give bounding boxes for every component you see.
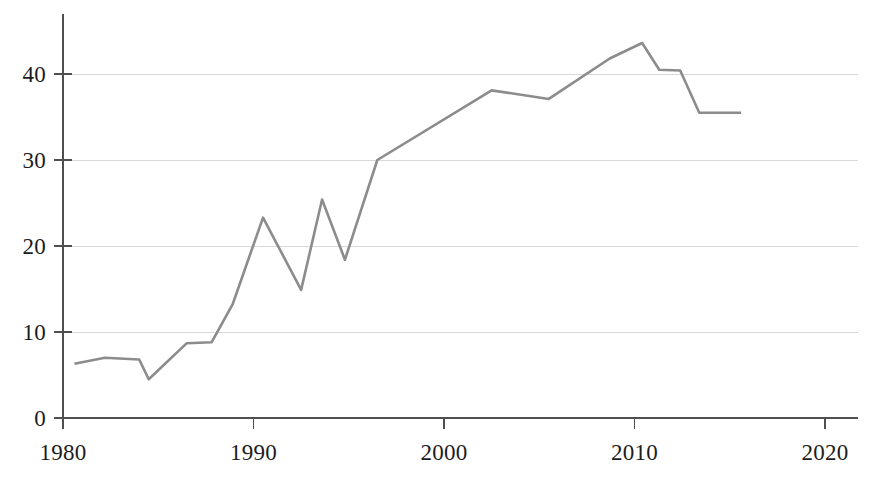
x-axis-ticks — [63, 409, 825, 429]
x-tick-label-2000: 2000 — [421, 440, 468, 465]
chart-canvas: 010203040 19801990200020102020 — [0, 0, 870, 486]
x-tick-label-1980: 1980 — [40, 440, 87, 465]
axes — [63, 14, 858, 418]
x-tick-label-1990: 1990 — [230, 440, 277, 465]
y-tick-label-40: 40 — [23, 62, 46, 87]
x-axis-tick-labels: 19801990200020102020 — [40, 440, 849, 465]
y-tick-label-20: 20 — [23, 234, 46, 259]
y-tick-label-0: 0 — [34, 406, 46, 431]
y-tick-label-10: 10 — [23, 320, 46, 345]
x-tick-label-2020: 2020 — [802, 440, 849, 465]
y-tick-label-30: 30 — [23, 148, 46, 173]
y-axis-tick-labels: 010203040 — [23, 62, 46, 431]
series-line-1 — [74, 43, 741, 379]
data-series — [74, 43, 741, 379]
line-chart: 010203040 19801990200020102020 — [0, 0, 870, 486]
x-tick-label-2010: 2010 — [611, 440, 658, 465]
